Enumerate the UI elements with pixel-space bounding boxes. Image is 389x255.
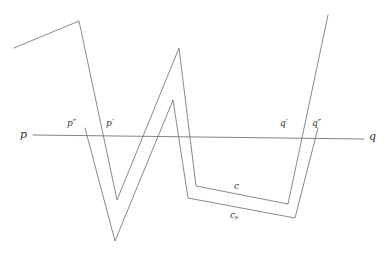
label-q-prime: q′ [280,119,288,128]
label-c: c [234,182,239,191]
label-q-double-prime: q″ [312,119,321,128]
curve-c [14,15,328,204]
label-p: p [20,129,27,140]
label-p-prime: p′ [106,119,114,128]
label-c-s: cs [230,211,238,220]
geometry-diagram: p p″ p′ q′ q″ q c cs [0,0,389,255]
label-c-s-subscript: s [235,213,238,220]
diagram-canvas [0,0,389,255]
label-p-double-prime: p″ [67,119,76,128]
label-q: q [369,131,376,142]
pq-line [33,135,364,139]
